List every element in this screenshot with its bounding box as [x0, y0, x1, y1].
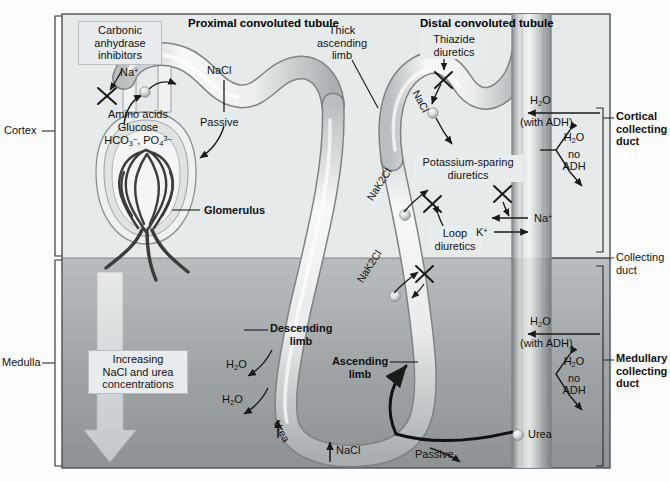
- ascending-line-2: limb: [330, 368, 390, 381]
- header-distal-convoluted-tubule: Distal convoluted tubule: [420, 17, 554, 29]
- loop-line-2: diuretics: [431, 240, 479, 253]
- label-potassium-cd: K+: [476, 225, 488, 239]
- label-h2o-cortical-adh: H2O: [530, 94, 551, 111]
- label-passive-pct: Passive: [200, 116, 239, 129]
- label-medulla: Medulla: [2, 356, 41, 369]
- label-ascending-limb: Ascending limb: [330, 355, 390, 380]
- label-h2o-descending-2: H2O: [222, 393, 243, 410]
- ascending-line-1: Ascending: [330, 355, 390, 368]
- potassium-line-2: diuretics: [416, 169, 520, 182]
- medullary-cd-line-1: Medullary: [616, 352, 670, 365]
- label-descending-limb: Descending limb: [270, 322, 332, 347]
- label-cortical-collecting-duct: Cortical collecting duct: [616, 110, 670, 148]
- gradient-line-1: Increasing: [93, 353, 183, 366]
- thiazide-line-1: Thiazide: [423, 33, 485, 46]
- label-pct-solutes: Amino acids Glucose HCO3–, PO43–: [86, 108, 190, 151]
- nephron-diagram-figure: Proximal convoluted tubule Distal convol…: [0, 0, 670, 482]
- gradient-line-3: concentrations: [93, 378, 183, 391]
- collecting-duct-line-2: duct: [616, 264, 670, 277]
- medullary-cd-line-3: duct: [616, 377, 670, 390]
- box-loop-diuretics: Loop diuretics: [428, 226, 482, 253]
- h2o-glyph-cortical: H2O: [558, 131, 590, 148]
- label-sodium-pct: Na+: [120, 65, 138, 79]
- label-nacl-pct: NaCl: [207, 64, 231, 77]
- label-h2o-medullary-adh: H2O: [530, 315, 551, 332]
- collecting-duct-line-1: Collecting: [616, 251, 670, 264]
- descending-line-1: Descending: [270, 322, 332, 335]
- label-sodium-cd: Na+: [534, 211, 552, 225]
- carbonic-line-1: Carbonic: [83, 24, 157, 37]
- box-thiazide-diuretics: Thiazide diuretics: [420, 32, 488, 59]
- thick-line-2: ascending: [312, 37, 372, 50]
- box-increasing-concentrations: Increasing NaCl and urea concentrations: [88, 350, 188, 394]
- cortical-cd-line-2: collecting: [616, 123, 670, 136]
- potassium-line-1: Potassium-sparing: [416, 156, 520, 169]
- no-label-cortical: no: [558, 148, 590, 161]
- label-h2o-cortical-no-adh: H2O no ADH: [558, 131, 590, 173]
- box-potassium-sparing-diuretics: Potassium-sparing diuretics: [413, 155, 523, 182]
- thiazide-line-2: diuretics: [423, 46, 485, 59]
- no-label-medullary: no: [558, 372, 590, 385]
- label-collecting-duct: Collecting duct: [616, 251, 670, 276]
- label-h2o-medullary-no-adh: H2O no ADH: [558, 355, 590, 397]
- urea-transporter-ball: [513, 430, 524, 441]
- box-carbonic-anhydrase-inhibitors: Carbonic anhydrase inhibitors: [78, 21, 162, 65]
- label-with-adh-medullary: (with ADH): [520, 337, 573, 350]
- label-cortex: Cortex: [4, 124, 36, 137]
- medulla-bracket: [42, 260, 62, 466]
- nephron-diagram-canvas: [0, 0, 670, 482]
- thick-line-3: limb: [312, 49, 372, 62]
- gradient-line-2: NaCl and urea: [93, 366, 183, 379]
- label-with-adh-cortical: (with ADH): [520, 116, 573, 129]
- descending-line-2: limb: [270, 335, 332, 348]
- label-passive-loop: Passive: [415, 448, 454, 461]
- carbonic-line-2: anhydrase: [83, 37, 157, 50]
- carbonic-line-3: inhibitors: [83, 49, 157, 62]
- label-nacl-loop: NaCl: [336, 444, 360, 457]
- label-glucose: Glucose: [86, 121, 190, 134]
- adh-label-medullary: ADH: [558, 384, 590, 397]
- label-h2o-descending-1: H2O: [226, 358, 247, 375]
- medullary-cd-line-2: collecting: [616, 365, 670, 378]
- h2o-glyph-medullary: H2O: [558, 355, 590, 372]
- label-urea-medullary: Urea: [528, 428, 552, 441]
- label-medullary-collecting-duct: Medullary collecting duct: [616, 352, 670, 390]
- collecting-duct: [512, 14, 551, 468]
- cortical-cd-line-1: Cortical: [616, 110, 670, 123]
- label-glomerulus: Glomerulus: [204, 204, 265, 217]
- label-amino-acids: Amino acids: [86, 108, 190, 121]
- cortical-cd-line-3: duct: [616, 135, 670, 148]
- cortex-bracket: [42, 16, 62, 256]
- label-thick-ascending-limb: Thick ascending limb: [312, 24, 372, 62]
- adh-label-cortical: ADH: [558, 160, 590, 173]
- loop-line-1: Loop: [431, 227, 479, 240]
- label-bicarbonate-phosphate: HCO3–, PO43–: [86, 133, 190, 151]
- thick-line-1: Thick: [312, 24, 372, 37]
